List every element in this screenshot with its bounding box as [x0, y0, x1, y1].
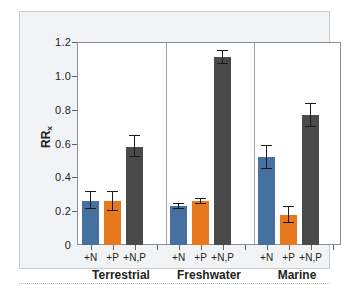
x-tick-label: +N: [84, 252, 97, 263]
x-tick-mark: [179, 245, 180, 250]
x-tick-mark: [223, 245, 224, 250]
y-tick-label: 0.2: [55, 205, 71, 217]
y-tick-label: 0.8: [55, 104, 71, 116]
error-bar-cap-top: [283, 206, 294, 207]
y-axis: 00.20.40.60.81.01.2: [20, 12, 77, 245]
bar: [170, 206, 187, 245]
error-bar-stem: [90, 191, 91, 210]
error-bar-cap-bottom: [107, 210, 118, 211]
error-bar-stem: [112, 191, 113, 211]
group-label: Marine: [278, 268, 317, 282]
x-tick-mark: [289, 245, 290, 250]
chart-panel: RRx 00.20.40.60.81.01.2 +N+P+N,PTerrestr…: [19, 11, 330, 269]
error-bar: [305, 103, 316, 127]
error-bar: [107, 191, 118, 211]
error-bar-cap-top: [129, 135, 140, 136]
group-label: Terrestrial: [92, 268, 150, 282]
error-bar: [173, 203, 184, 210]
error-bar-cap-top: [85, 191, 96, 192]
x-tick-mark: [201, 245, 202, 250]
x-tick-label: +N,P: [211, 252, 234, 263]
bar: [126, 147, 143, 245]
x-tick-mark: [267, 245, 268, 250]
x-tick-mark: [113, 245, 114, 250]
error-bar-cap-top: [173, 203, 184, 204]
bottom-divider: [19, 283, 330, 284]
error-bar-cap-bottom: [283, 222, 294, 223]
y-tick-label: 1.0: [55, 70, 71, 82]
error-bar-stem: [310, 103, 311, 127]
error-bar-cap-bottom: [85, 208, 96, 209]
error-bar: [261, 145, 272, 169]
error-bar-cap-top: [107, 191, 118, 192]
error-bar: [217, 50, 228, 64]
y-tick-label: 1.2: [55, 36, 71, 48]
bar: [214, 57, 231, 245]
error-bar-stem: [134, 135, 135, 157]
error-bar: [283, 206, 294, 223]
x-tick-mark: [245, 245, 246, 250]
x-tick-label: +P: [194, 252, 207, 263]
bar: [302, 115, 319, 245]
figure-container: RRx 00.20.40.60.81.01.2 +N+P+N,PTerrestr…: [0, 0, 348, 292]
error-bar-stem: [266, 145, 267, 169]
x-tick-mark: [91, 245, 92, 250]
error-bar-cap-top: [261, 145, 272, 146]
error-bar-stem: [222, 50, 223, 64]
group-label: Freshwater: [177, 268, 241, 282]
x-tick-mark: [157, 245, 158, 250]
bar: [192, 201, 209, 245]
error-bar: [195, 198, 206, 205]
error-bar-cap-bottom: [305, 126, 316, 127]
error-bar-cap-bottom: [173, 208, 184, 209]
error-bar: [129, 135, 140, 157]
y-tick-label: 0.4: [55, 171, 71, 183]
error-bar: [85, 191, 96, 210]
error-bar-cap-top: [217, 50, 228, 51]
x-tick-label: +N: [260, 252, 273, 263]
error-bar-cap-bottom: [261, 168, 272, 169]
y-tick-label: 0.6: [55, 138, 71, 150]
group-separator: [166, 43, 167, 244]
error-bar-cap-top: [305, 103, 316, 104]
error-bar-cap-bottom: [217, 63, 228, 64]
group-separator: [254, 43, 255, 244]
bar: [258, 157, 275, 245]
x-tick-label: +N,P: [299, 252, 322, 263]
error-bar-stem: [288, 206, 289, 223]
x-tick-label: +P: [106, 252, 119, 263]
error-bar-cap-top: [195, 198, 206, 199]
x-tick-mark: [135, 245, 136, 250]
x-tick-label: +N: [172, 252, 185, 263]
x-tick-label: +N,P: [123, 252, 146, 263]
y-tick-label: 0: [65, 239, 71, 251]
x-tick-label: +P: [282, 252, 295, 263]
error-bar-cap-bottom: [195, 203, 206, 204]
x-tick-mark: [333, 245, 334, 250]
error-bar-cap-bottom: [129, 156, 140, 157]
x-tick-mark: [311, 245, 312, 250]
